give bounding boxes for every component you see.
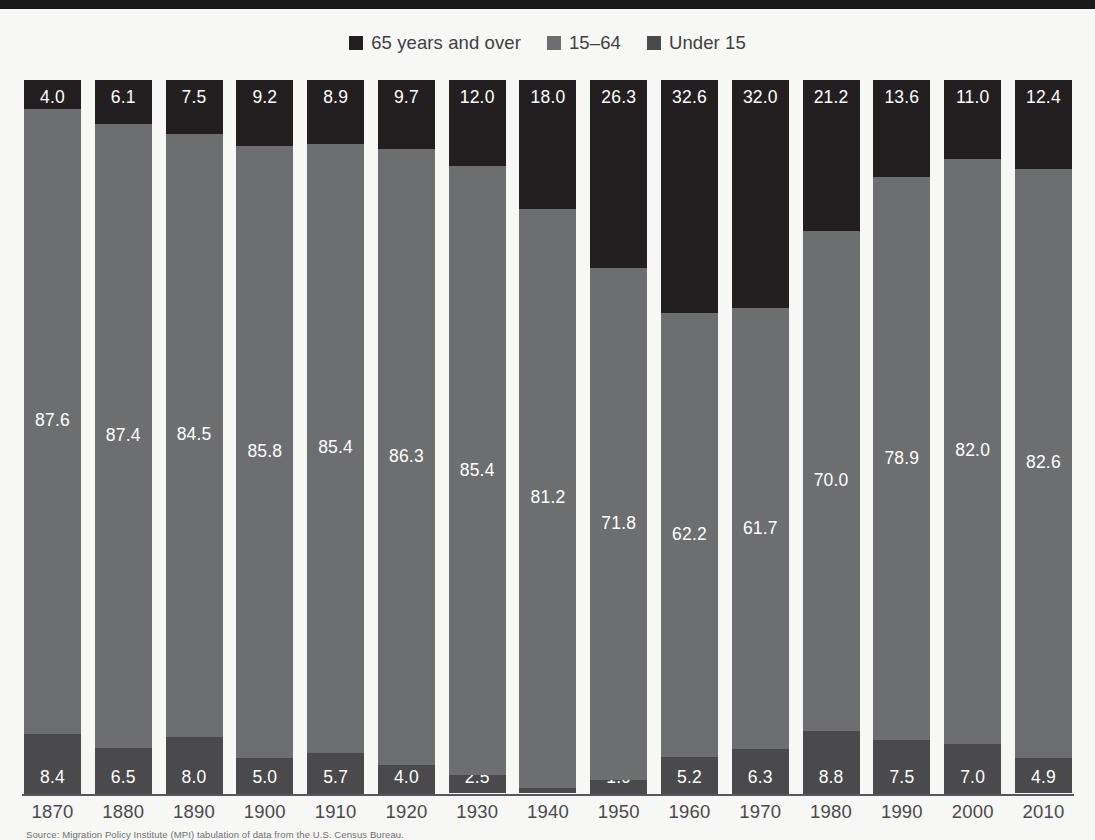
bar-segment[interactable]: 11.0 [944, 80, 1001, 159]
bar-column[interactable]: 12.482.64.9 [1015, 80, 1072, 794]
bar-column[interactable]: 7.584.58.0 [166, 80, 223, 794]
bar-segment[interactable]: 1.9 [590, 780, 647, 794]
bar-segment[interactable]: 78.9 [873, 177, 930, 740]
bar-segment[interactable]: 12.4 [1015, 80, 1072, 169]
bar-column[interactable]: 4.087.68.4 [24, 80, 81, 794]
bar-segment[interactable]: 85.4 [449, 166, 506, 776]
bar-segment[interactable]: 4.9 [1015, 758, 1072, 793]
bar-segment[interactable]: 18.0 [519, 80, 576, 209]
square-swatch-icon [647, 36, 661, 50]
bar-segment-value: 82.6 [1015, 455, 1072, 473]
top-rule-decoration [0, 0, 1095, 9]
bar-segment[interactable]: 62.2 [661, 313, 718, 757]
bar-segment-value: 21.2 [803, 89, 860, 107]
bar-segment[interactable]: 82.6 [1015, 169, 1072, 759]
bar-segment-value: 32.0 [732, 89, 789, 107]
bar-column[interactable]: 6.187.46.5 [95, 80, 152, 794]
bar-segment[interactable]: 4.0 [24, 80, 81, 109]
bar-segment-value: 11.0 [944, 89, 1001, 107]
bar-segment[interactable]: 2.5 [449, 775, 506, 793]
bar-segment[interactable]: 4.0 [378, 765, 435, 794]
bar-column[interactable]: 26.371.81.9 [590, 80, 647, 794]
legend-item[interactable]: 65 years and over [349, 34, 521, 53]
bar-segment[interactable]: 85.8 [236, 146, 293, 759]
bar-segment-value: 6.3 [732, 769, 789, 787]
bar-segment[interactable]: 6.1 [95, 80, 152, 124]
bar-segment[interactable]: 8.0 [166, 737, 223, 794]
x-axis-tick-label: 1950 [590, 800, 647, 823]
bar-segment-value: 6.1 [95, 89, 152, 107]
bar-column[interactable]: 8.985.45.7 [307, 80, 364, 794]
bar-segment[interactable]: 6.5 [95, 748, 152, 794]
bar-segment-value: 61.7 [732, 520, 789, 538]
bar-column[interactable]: 32.061.76.3 [732, 80, 789, 794]
bar-column[interactable]: 18.081.20.7 [519, 80, 576, 794]
bar-segment[interactable]: 81.2 [519, 209, 576, 789]
bar-segment[interactable]: 6.3 [732, 749, 789, 794]
bar-segment[interactable]: 9.2 [236, 80, 293, 146]
x-axis-tick-label: 1920 [378, 800, 435, 823]
bar-segment-value: 9.2 [236, 89, 293, 107]
bar-segment[interactable]: 12.0 [449, 80, 506, 166]
bar-segment-value: 4.9 [1015, 769, 1072, 787]
bar-segment[interactable]: 82.0 [944, 159, 1001, 744]
bar-column[interactable]: 21.270.08.8 [803, 80, 860, 794]
bar-segment-value: 87.4 [95, 427, 152, 445]
bar-segment-value: 26.3 [590, 89, 647, 107]
bar-segment[interactable]: 32.6 [661, 80, 718, 313]
x-axis-tick-labels: 1870188018901900191019201930194019501960… [24, 800, 1072, 823]
bar-segment-value: 5.0 [236, 769, 293, 787]
bar-segment[interactable]: 13.6 [873, 80, 930, 177]
legend-item-label: 15–64 [569, 34, 621, 53]
bar-segment-value: 1.9 [590, 780, 647, 787]
bar-segment[interactable]: 5.0 [236, 758, 293, 794]
bar-column[interactable]: 9.786.34.0 [378, 80, 435, 794]
bar-segment[interactable]: 5.7 [307, 753, 364, 794]
bar-column[interactable]: 32.662.25.2 [661, 80, 718, 794]
bar-segment-value: 7.5 [166, 89, 223, 107]
bar-segment[interactable]: 87.6 [24, 109, 81, 734]
bar-segment[interactable]: 61.7 [732, 308, 789, 749]
bar-segment[interactable]: 8.8 [803, 731, 860, 794]
bar-column[interactable]: 11.082.07.0 [944, 80, 1001, 794]
bar-segment-value: 7.0 [944, 769, 1001, 787]
bar-column[interactable]: 12.085.42.5 [449, 80, 506, 794]
bar-segment-value: 12.0 [449, 89, 506, 107]
bar-segment[interactable]: 0.7 [519, 788, 576, 793]
bar-column[interactable]: 13.678.97.5 [873, 80, 930, 794]
bar-segment[interactable]: 7.0 [944, 744, 1001, 794]
bar-segment[interactable]: 21.2 [803, 80, 860, 231]
x-axis-tick-label: 1930 [449, 800, 506, 823]
bar-segment-value: 8.0 [166, 769, 223, 787]
bar-segment[interactable]: 86.3 [378, 149, 435, 765]
bar-segment[interactable]: 84.5 [166, 134, 223, 737]
bar-segment-value: 2.5 [449, 775, 506, 786]
bar-segment-value: 78.9 [873, 450, 930, 468]
bar-segment[interactable]: 85.4 [307, 144, 364, 754]
bar-segment-value: 4.0 [24, 89, 81, 107]
bar-segment[interactable]: 5.2 [661, 757, 718, 794]
bar-segment[interactable]: 70.0 [803, 231, 860, 731]
x-axis-tick-label: 1890 [166, 800, 223, 823]
bar-segment[interactable]: 26.3 [590, 80, 647, 268]
legend-item[interactable]: Under 15 [647, 34, 746, 53]
bar-segment[interactable]: 7.5 [873, 740, 930, 794]
bar-segment[interactable]: 8.9 [307, 80, 364, 144]
legend-item[interactable]: 15–64 [547, 34, 621, 53]
bar-segment-value: 9.7 [378, 89, 435, 107]
bar-segment-value: 62.2 [661, 526, 718, 544]
square-swatch-icon [547, 36, 561, 50]
bar-segment-value: 5.2 [661, 769, 718, 787]
bar-segment[interactable]: 8.4 [24, 734, 81, 794]
bar-segment[interactable]: 87.4 [95, 124, 152, 748]
x-axis-tick-label: 1900 [236, 800, 293, 823]
bar-segment[interactable]: 7.5 [166, 80, 223, 134]
bar-segment[interactable]: 32.0 [732, 80, 789, 308]
x-axis-tick-label: 2010 [1015, 800, 1072, 823]
bar-segment[interactable]: 9.7 [378, 80, 435, 149]
chart-page: 65 years and over15–64Under 15 4.087.68.… [0, 0, 1095, 840]
bar-column[interactable]: 9.285.85.0 [236, 80, 293, 794]
bar-segment-value: 71.8 [590, 515, 647, 533]
bar-segment[interactable]: 71.8 [590, 268, 647, 781]
bar-segment-value: 8.4 [24, 769, 81, 787]
